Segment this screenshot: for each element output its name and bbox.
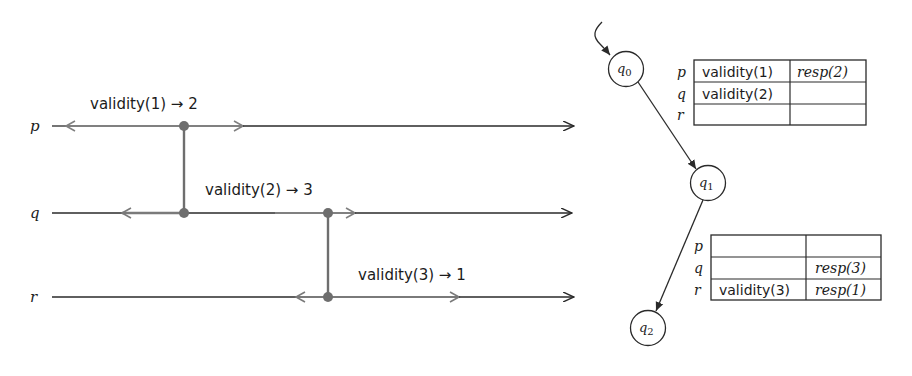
event-dot: [323, 208, 333, 218]
event-dot: [179, 208, 189, 218]
table-cell: resp(3): [815, 260, 866, 276]
initial-arrow-icon: [595, 22, 610, 55]
automaton-diagram: q0 q1 q2 p q r validity(1) resp(2) valid…: [595, 22, 881, 346]
row-label-q: q: [677, 86, 686, 102]
process-line-p: [52, 121, 574, 131]
state-q0: q0: [609, 52, 644, 87]
row-label-p: p: [694, 238, 703, 254]
state-table-q1: p q r resp(3) validity(3) resp(1): [694, 235, 881, 300]
process-label-p: p: [30, 117, 40, 135]
row-label-q: q: [694, 260, 703, 276]
process-label-q: q: [30, 204, 40, 222]
table-cell: resp(2): [797, 64, 848, 80]
table-cell: validity(1): [702, 64, 773, 80]
row-label-r: r: [694, 282, 702, 298]
state-q1: q1: [691, 166, 726, 201]
process-label-r: r: [30, 288, 38, 306]
row-label-p: p: [677, 64, 686, 80]
event-label-validity-1: validity(1) → 2: [90, 95, 198, 113]
event-label-validity-2: validity(2) → 3: [205, 181, 313, 199]
state-table-q0: p q r validity(1) resp(2) validity(2): [677, 60, 866, 125]
state-q2: q2: [631, 311, 666, 346]
table-cell: resp(1): [815, 282, 866, 298]
process-line-r: [52, 292, 574, 302]
figure: p q r: [0, 0, 912, 376]
table-cell: validity(3): [719, 282, 790, 298]
table-cell: validity(2): [702, 86, 773, 102]
row-label-r: r: [677, 107, 685, 123]
process-line-q: [52, 208, 572, 218]
event-label-validity-3: validity(3) → 1: [358, 266, 466, 284]
event-dot: [179, 121, 189, 131]
timeline-diagram: p q r: [30, 95, 574, 306]
transition-q0-q1: [638, 82, 696, 169]
event-dot: [323, 292, 333, 302]
